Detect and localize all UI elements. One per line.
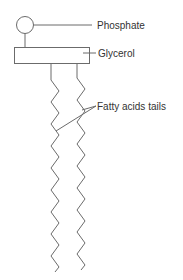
- tails-leader-line-left: [56, 106, 96, 131]
- phosphate-head: [17, 17, 34, 34]
- glycerol-block: [15, 48, 90, 64]
- fatty-acid-tail-left: [51, 64, 59, 272]
- phosphate-label: Phosphate: [97, 20, 145, 31]
- phospholipid-diagram: Phosphate Glycerol Fatty acids tails: [0, 0, 183, 280]
- tails-leader-line-right: [82, 106, 96, 110]
- glycerol-label: Glycerol: [98, 48, 135, 59]
- fatty-acids-tails-label: Fatty acids tails: [97, 101, 166, 112]
- fatty-acid-tail-right: [77, 64, 85, 270]
